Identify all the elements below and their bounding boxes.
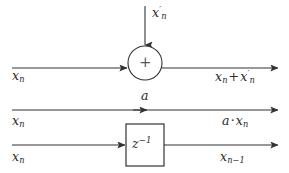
plus-icon: +	[139, 55, 152, 70]
delay-input-label: xn	[12, 151, 25, 165]
delay-output-label: xn−1	[220, 151, 245, 165]
gain-input-label: xn	[12, 115, 25, 129]
adder-top-input-label: x′n	[152, 6, 166, 21]
signal-flow-diagram: x′n xn + xn+x′n a xn a·xn xn z−1 xn−1	[0, 0, 289, 173]
gain-output-label: a·xn	[222, 115, 248, 129]
adder-output-label: xn+x′n	[215, 70, 255, 85]
gain-coefficient-label: a	[141, 90, 149, 103]
adder-left-input-label: xn	[12, 70, 25, 84]
unit-delay-block-label: z−1	[132, 136, 151, 150]
